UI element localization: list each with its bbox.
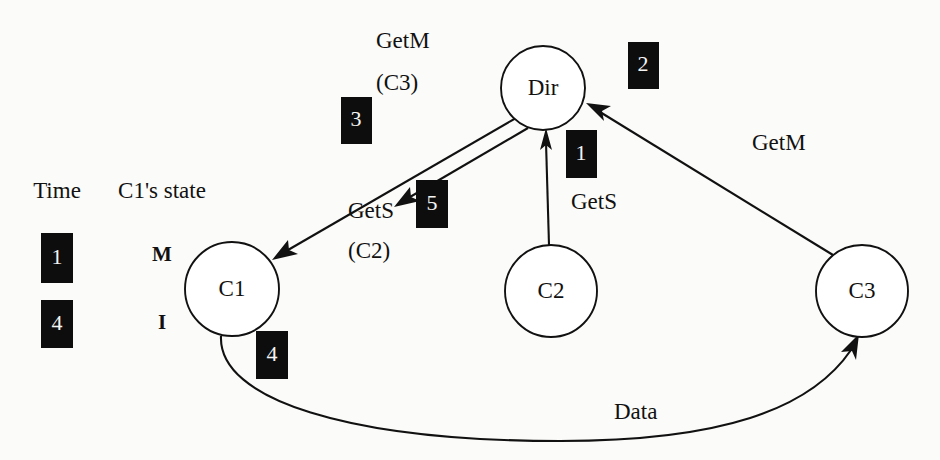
edge-getm-dir-to-c1 (272, 118, 516, 260)
badge-time-4-value: 4 (52, 310, 63, 335)
badge-step-4-value: 4 (267, 341, 278, 366)
edge-curve-data-c1-to-c3 (221, 336, 851, 441)
legend-time-header: Time (33, 178, 81, 203)
badge-time-4: 4 (41, 300, 73, 348)
coherence-diagram: Dir C1 C2 C3 GetM (C3) GetS (C2) GetS Ge… (0, 0, 940, 460)
edge-line-gets-c2-to-dir (546, 142, 549, 245)
diagram-canvas: Dir C1 C2 C3 GetM (C3) GetS (C2) GetS Ge… (0, 0, 940, 460)
badge-step-2-value: 2 (638, 51, 649, 76)
badge-step-4: 4 (256, 331, 288, 379)
badge-step-1: 1 (566, 130, 597, 178)
node-c3[interactable]: C3 (816, 245, 908, 337)
edge-label-gets-c2-sub: (C2) (348, 238, 390, 263)
edge-data-c1-to-c3 (221, 334, 859, 441)
badge-step-5-value: 5 (427, 190, 438, 215)
edge-label-gets-right: GetS (571, 189, 617, 214)
edge-getm-c3-to-dir (586, 103, 833, 255)
arrow-head-getm-c3-to-dir (586, 103, 611, 121)
badge-step-3-value: 3 (351, 106, 362, 131)
arrow-head-data-c1-to-c3 (841, 334, 859, 360)
edge-label-getm-c3-sub: (C3) (376, 70, 418, 95)
legend-state-row-0: M (152, 242, 172, 266)
node-c2-label: C2 (538, 278, 565, 303)
edge-label-data: Data (614, 399, 657, 424)
badge-time-1-value: 1 (52, 244, 63, 269)
badge-step-1-value: 1 (576, 140, 587, 165)
badge-step-5: 5 (416, 180, 448, 228)
node-c2[interactable]: C2 (505, 245, 597, 337)
edge-gets-c2-to-dir (540, 128, 552, 245)
edge-label-gets-c2: GetS (348, 198, 394, 223)
edge-gets-dir-to-c1 (394, 128, 528, 207)
node-dir-label: Dir (528, 75, 559, 100)
badge-step-2: 2 (628, 42, 659, 89)
badge-step-3: 3 (341, 97, 372, 144)
arrow-head-getm-dir-to-c1 (272, 240, 298, 260)
node-dir[interactable]: Dir (501, 46, 585, 130)
legend-state-header: C1's state (118, 178, 206, 203)
node-c1-label: C1 (219, 276, 246, 301)
node-c3-label: C3 (849, 278, 876, 303)
legend-state-row-1: I (158, 310, 166, 334)
edge-line-getm-dir-to-c1 (288, 118, 516, 250)
edge-label-getm-c3: GetM (376, 28, 430, 53)
node-c1[interactable]: C1 (185, 242, 279, 336)
badge-time-1: 1 (41, 233, 73, 283)
edge-label-getm-right: GetM (752, 130, 806, 155)
